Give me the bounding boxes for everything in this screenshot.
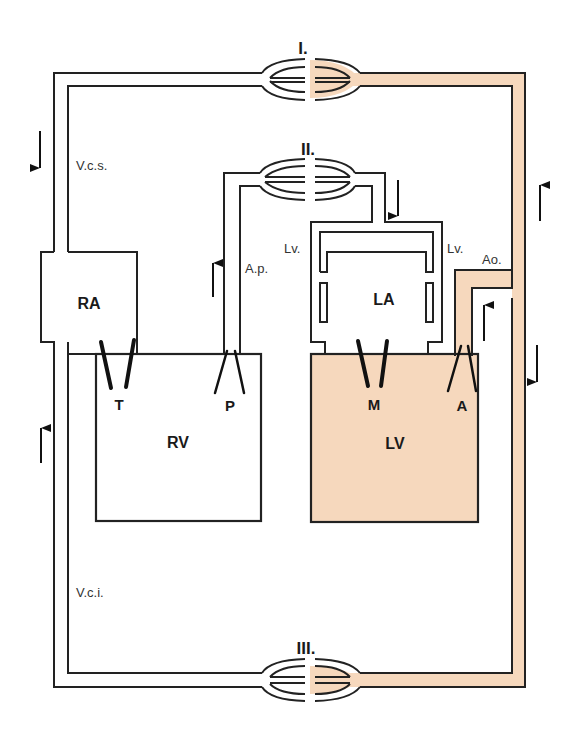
chamber-label-la: LA	[373, 291, 395, 308]
vessel-label-ap: A.p.	[245, 261, 268, 276]
pulmonary-valve-icon	[215, 351, 244, 393]
vessel-label-vci: V.c.i.	[76, 585, 104, 600]
chamber-label-lv: LV	[385, 435, 405, 452]
vessel-label-ao: Ao.	[482, 252, 502, 267]
vessel-label-vcs: V.c.s.	[76, 158, 107, 173]
capillary-label-I: I.	[298, 39, 307, 58]
valve-label-t: T	[114, 396, 123, 413]
capillary-label-II: II.	[301, 140, 315, 159]
capillary-label-III: III.	[297, 639, 316, 658]
capillary-bed-II	[260, 159, 355, 200]
chamber-label-rv: RV	[167, 434, 189, 451]
valve-label-a: A	[457, 397, 468, 414]
valve-label-p: P	[225, 397, 235, 414]
vessel-label-lv-left: Lv.	[284, 241, 300, 256]
valve-label-m: M	[368, 396, 381, 413]
tricuspid-valve-icon	[101, 340, 134, 388]
chamber-label-ra: RA	[77, 295, 101, 312]
vessel-label-lv-right: Lv.	[447, 241, 463, 256]
left-atrium	[320, 232, 433, 322]
circulation-diagram: I. II. III. RA RV LA LV T P M A V.c.s. V…	[0, 0, 566, 731]
oxygenated-fill	[310, 60, 525, 694]
